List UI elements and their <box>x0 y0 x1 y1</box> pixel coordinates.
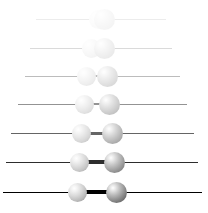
frame-5-left-atom <box>72 124 91 143</box>
dissociation-figure <box>0 0 208 213</box>
frame-3-right-atom <box>97 66 118 87</box>
frame-5-right-atom <box>102 123 123 144</box>
frame-3-left-atom <box>77 67 96 86</box>
frame-4-left-atom <box>75 95 94 114</box>
frame-1-right-atom <box>94 9 115 30</box>
frame-6-left-atom <box>70 153 89 172</box>
frame-6-right-atom <box>104 152 125 173</box>
frame-4-right-atom <box>99 94 120 115</box>
frame-7-left-atom <box>68 183 87 202</box>
frame-7-right-atom <box>106 182 127 203</box>
frame-2-right-atom <box>94 38 115 59</box>
